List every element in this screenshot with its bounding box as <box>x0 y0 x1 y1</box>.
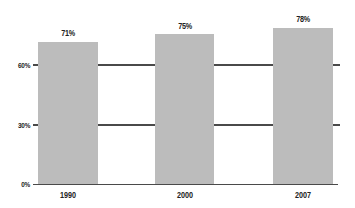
y-tick-label-30: 30% <box>18 121 30 130</box>
value-label-1990: 71% <box>61 28 75 38</box>
value-label-2000: 75% <box>178 21 192 31</box>
y-tick-label-0: 0% <box>21 180 30 189</box>
value-label-2007: 78% <box>296 14 310 24</box>
bar-2000 <box>155 34 214 184</box>
bar-1990 <box>38 42 98 184</box>
y-tick-label-60: 60% <box>18 61 30 70</box>
bar-2007 <box>273 28 333 184</box>
x-tick-label-2000: 2000 <box>177 190 193 200</box>
x-tick-label-1990: 1990 <box>60 190 76 200</box>
x-tick-label-2007: 2007 <box>295 190 311 200</box>
bar-chart: 60% 30% 0% 71% 75% 78% 1990 2000 2007 <box>0 0 355 208</box>
x-axis-line <box>33 184 338 186</box>
